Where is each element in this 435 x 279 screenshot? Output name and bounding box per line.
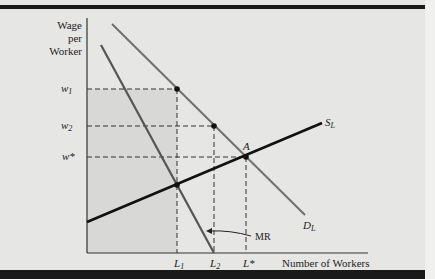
- label-MR: MR: [255, 232, 271, 242]
- tick-w1: w1: [61, 83, 72, 96]
- label-demand-DL: DL: [303, 220, 315, 233]
- tick-Lstar: L*: [243, 258, 255, 269]
- label-point-A: A: [243, 141, 250, 152]
- tick-wstar: w*: [62, 151, 75, 162]
- y-axis-title-line3: Worker: [49, 45, 82, 58]
- x-axis-title: Number of Workers: [282, 258, 370, 269]
- y-axis-title-line2: per: [49, 32, 82, 45]
- point-A: [243, 154, 249, 160]
- tick-w2: w2: [61, 120, 72, 133]
- point-mr-supply: [174, 182, 180, 188]
- mr-arrow: [210, 231, 251, 236]
- label-supply-SL: SL: [325, 117, 335, 130]
- y-axis-title-line1: Wage: [49, 19, 82, 32]
- tick-L1: L1: [174, 258, 184, 271]
- point-w2-demand: [211, 123, 217, 129]
- point-w1-demand: [174, 86, 180, 92]
- arrowhead-icon: [206, 228, 212, 234]
- tick-L2: L2: [210, 258, 220, 271]
- y-axis-title: Wage per Worker: [49, 19, 82, 58]
- shaded-region: [87, 89, 177, 253]
